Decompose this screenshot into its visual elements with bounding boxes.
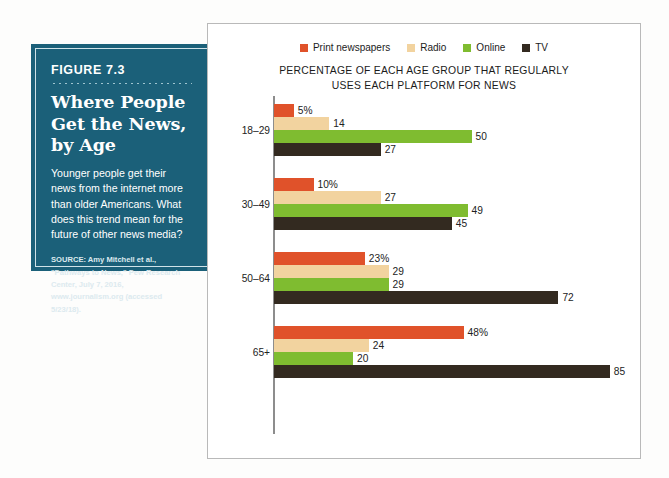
bar-row: 29 (274, 265, 404, 278)
chart-title: PERCENTAGE OF EACH AGE GROUP THAT REGULA… (208, 64, 640, 94)
legend-label: TV (535, 42, 548, 53)
legend-item-print-newspapers: Print newspapers (300, 42, 390, 53)
figure-description: Younger people get their news from the i… (51, 166, 192, 242)
bar-value-label: 20 (357, 353, 368, 364)
bar-value-label: 27 (385, 192, 396, 203)
bar-group: 18–295%145027 (208, 104, 642, 156)
bar-online (274, 204, 468, 217)
bar-row: 45 (274, 217, 467, 230)
bar-value-label: 49 (472, 205, 483, 216)
bar-value-label: 45 (456, 218, 467, 229)
bar-online (274, 352, 353, 365)
bar-value-label: 10% (318, 179, 338, 190)
bar-value-label: 23% (369, 253, 389, 264)
bar-radio (274, 117, 329, 130)
bar-online (274, 278, 389, 291)
bar-value-label: 27 (385, 144, 396, 155)
bar-row: 14 (274, 117, 345, 130)
bar-radio (274, 191, 381, 204)
bar-value-label: 72 (562, 292, 573, 303)
legend-swatch-icon (300, 44, 308, 52)
figure-source-note: SOURCE: Amy Mitchell et al., "Pathways t… (51, 254, 192, 315)
bar-value-label: 29 (393, 266, 404, 277)
legend-swatch-icon (463, 44, 471, 52)
bar-group: 65+48%242085 (208, 326, 642, 378)
bar-value-label: 5% (298, 105, 313, 116)
category-label-50–64: 50–64 (200, 273, 270, 284)
chart-plot-area: 18–295%14502730–4910%27494550–6423%29297… (208, 96, 642, 446)
bar-value-label: 24 (373, 340, 384, 351)
bar-radio (274, 339, 369, 352)
bar-row: 20 (274, 352, 368, 365)
chart-title-line-1: PERCENTAGE OF EACH AGE GROUP THAT REGULA… (208, 64, 640, 79)
bar-print-newspapers (274, 326, 464, 339)
category-label-65+: 65+ (200, 347, 270, 358)
bar-print-newspapers (274, 252, 365, 265)
bar-row: 72 (274, 291, 574, 304)
bar-row: 27 (274, 191, 396, 204)
figure-number: FIGURE 7.3 (51, 63, 192, 77)
bar-tv (274, 143, 381, 156)
category-label-18–29: 18–29 (200, 125, 270, 136)
bar-row: 5% (274, 104, 312, 117)
legend-label: Print newspapers (313, 42, 390, 53)
bar-value-label: 29 (393, 279, 404, 290)
bar-row: 48% (274, 326, 488, 339)
bar-print-newspapers (274, 104, 294, 117)
bar-row: 10% (274, 178, 338, 191)
bar-group: 50–6423%292972 (208, 252, 642, 304)
bar-row: 27 (274, 143, 396, 156)
bar-print-newspapers (274, 178, 314, 191)
bar-row: 50 (274, 130, 487, 143)
figure-callout-inner: FIGURE 7.3 Where People Get the News, by… (35, 48, 208, 267)
bar-value-label: 50 (476, 131, 487, 142)
bar-online (274, 130, 472, 143)
bar-row: 85 (274, 365, 625, 378)
bar-group: 30–4910%274945 (208, 178, 642, 230)
bar-tv (274, 291, 558, 304)
dotted-divider (51, 82, 192, 85)
bar-row: 49 (274, 204, 483, 217)
bar-value-label: 48% (468, 327, 488, 338)
category-label-30–49: 30–49 (200, 199, 270, 210)
legend-item-tv: TV (522, 42, 548, 53)
figure-callout-box: FIGURE 7.3 Where People Get the News, by… (31, 44, 212, 271)
bar-row: 29 (274, 278, 404, 291)
bar-tv (274, 365, 610, 378)
bar-value-label: 14 (333, 118, 344, 129)
chart-title-line-2: USES EACH PLATFORM FOR NEWS (208, 79, 640, 94)
bar-tv (274, 217, 452, 230)
legend-label: Online (476, 42, 505, 53)
figure-title: Where People Get the News, by Age (51, 92, 192, 157)
legend-item-online: Online (463, 42, 505, 53)
bar-row: 23% (274, 252, 389, 265)
chart-panel: Print newspapersRadioOnlineTV PERCENTAGE… (207, 23, 641, 459)
bar-radio (274, 265, 389, 278)
bar-value-label: 85 (614, 366, 625, 377)
legend-swatch-icon (407, 44, 415, 52)
legend-item-radio: Radio (407, 42, 446, 53)
legend-swatch-icon (522, 44, 530, 52)
legend-label: Radio (420, 42, 446, 53)
chart-legend: Print newspapersRadioOnlineTV (208, 42, 640, 53)
bar-row: 24 (274, 339, 384, 352)
